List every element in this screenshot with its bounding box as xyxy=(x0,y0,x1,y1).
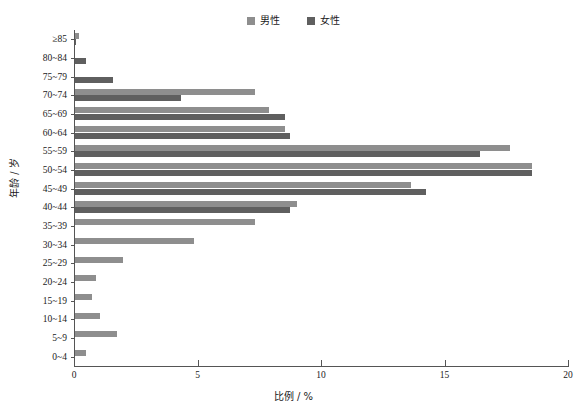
y-axis-category-label: 50~54 xyxy=(43,165,67,175)
y-axis-category-label: 80~84 xyxy=(43,53,67,63)
y-axis-category-label: 65~69 xyxy=(43,109,67,119)
bar-group: 15~19 xyxy=(75,291,569,310)
y-axis-category-label: 40~44 xyxy=(43,202,67,212)
bar-group: 75~79 xyxy=(75,67,569,86)
bar[interactable] xyxy=(75,189,426,195)
bar[interactable] xyxy=(75,77,113,83)
bar-group: 25~29 xyxy=(75,254,569,273)
y-axis-tick xyxy=(71,357,75,358)
bar-group: 10~14 xyxy=(75,310,569,329)
bar[interactable] xyxy=(75,58,86,64)
y-axis-category-label: 55~59 xyxy=(43,146,67,156)
bar[interactable] xyxy=(75,133,290,139)
bar-group: 65~69 xyxy=(75,105,569,124)
y-axis-tick xyxy=(71,263,75,264)
y-axis-category-label: 0~4 xyxy=(52,352,67,362)
y-axis-category-label: 25~29 xyxy=(43,258,67,268)
x-axis-tick-label: 20 xyxy=(563,370,573,380)
y-axis-tick xyxy=(71,226,75,227)
bar-group: 20~24 xyxy=(75,273,569,292)
bar-group: 55~59 xyxy=(75,142,569,161)
bar[interactable] xyxy=(75,331,117,337)
x-axis-tick-label: 15 xyxy=(440,370,450,380)
x-axis-tick-label: 10 xyxy=(316,370,326,380)
y-axis-tick xyxy=(71,319,75,320)
legend-swatch-icon xyxy=(307,17,315,25)
bar-group: 40~44 xyxy=(75,198,569,217)
bar-group: 0~4 xyxy=(75,347,569,366)
x-axis-tick-label: 5 xyxy=(195,370,200,380)
legend-swatch-icon xyxy=(247,17,255,25)
y-axis-tick xyxy=(71,282,75,283)
population-age-distribution-chart: 男性女性 05101520≥8580~8475~7970~7465~6960~6… xyxy=(0,0,587,416)
bar-group: 5~9 xyxy=(75,329,569,348)
y-axis-category-label: ≥85 xyxy=(52,34,67,44)
y-axis-category-label: 5~9 xyxy=(52,333,67,343)
legend-entry[interactable]: 男性 xyxy=(247,16,280,26)
bar[interactable] xyxy=(75,163,532,169)
bar[interactable] xyxy=(75,313,100,319)
bar-group: 50~54 xyxy=(75,161,569,180)
y-axis-category-label: 60~64 xyxy=(43,128,67,138)
plot-area: 05101520≥8580~8475~7970~7465~6960~6455~5… xyxy=(74,30,568,366)
y-axis-category-label: 10~14 xyxy=(43,314,67,324)
bar[interactable] xyxy=(75,170,532,176)
bar-group: 35~39 xyxy=(75,217,569,236)
bar[interactable] xyxy=(75,182,411,188)
y-axis-category-label: 35~39 xyxy=(43,221,67,231)
legend-label: 男性 xyxy=(260,16,280,26)
bar[interactable] xyxy=(75,201,297,207)
bar[interactable] xyxy=(75,294,92,300)
bar-group: 60~64 xyxy=(75,123,569,142)
bar[interactable] xyxy=(75,275,96,281)
y-axis-category-label: 45~49 xyxy=(43,184,67,194)
bar-group: 70~74 xyxy=(75,86,569,105)
bar[interactable] xyxy=(75,33,79,39)
bar-group: 80~84 xyxy=(75,49,569,68)
legend-label: 女性 xyxy=(320,16,340,26)
bar[interactable] xyxy=(75,39,76,45)
bar[interactable] xyxy=(75,257,123,263)
bar[interactable] xyxy=(75,151,480,157)
bar-group: ≥85 xyxy=(75,30,569,49)
bar[interactable] xyxy=(75,238,194,244)
y-axis-category-label: 20~24 xyxy=(43,277,67,287)
bar[interactable] xyxy=(75,107,269,113)
bar[interactable] xyxy=(75,95,181,101)
bar[interactable] xyxy=(75,114,285,120)
bar-group: 45~49 xyxy=(75,179,569,198)
y-axis-tick xyxy=(71,338,75,339)
y-axis-category-label: 70~74 xyxy=(43,90,67,100)
y-axis-category-label: 75~79 xyxy=(43,72,67,82)
bar[interactable] xyxy=(75,89,255,95)
y-axis-title: 年龄 / 岁 xyxy=(6,158,21,198)
y-axis-category-label: 30~34 xyxy=(43,240,67,250)
y-axis-tick xyxy=(71,301,75,302)
bar-group: 30~34 xyxy=(75,235,569,254)
bar[interactable] xyxy=(75,219,255,225)
y-axis-category-label: 15~19 xyxy=(43,296,67,306)
bar[interactable] xyxy=(75,126,285,132)
legend-entry[interactable]: 女性 xyxy=(307,16,340,26)
y-axis-tick xyxy=(71,245,75,246)
bar[interactable] xyxy=(75,350,86,356)
x-axis-tick-label: 0 xyxy=(72,370,77,380)
x-axis-title: 比例 / % xyxy=(0,388,587,403)
bar[interactable] xyxy=(75,145,510,151)
chart-legend: 男性女性 xyxy=(0,14,587,28)
bar[interactable] xyxy=(75,207,290,213)
